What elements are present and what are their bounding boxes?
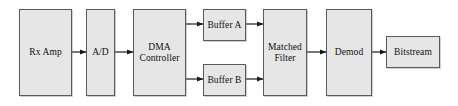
- node-label-ad: A/D: [90, 47, 111, 58]
- node-bitstream[interactable]: Bitstream: [386, 36, 440, 68]
- node-label-rx_amp: Rx Amp: [27, 47, 64, 58]
- block-diagram: Rx AmpA/DDMA ControllerBuffer ABuffer BM…: [0, 0, 458, 106]
- node-ad[interactable]: A/D: [86, 9, 115, 96]
- node-matched_filter[interactable]: Matched Filter: [263, 9, 307, 96]
- node-label-bitstream: Bitstream: [392, 47, 434, 58]
- node-buffer_a[interactable]: Buffer A: [203, 9, 246, 41]
- node-label-buffer_a: Buffer A: [205, 20, 243, 31]
- node-label-demod: Demod: [333, 47, 365, 58]
- node-label-matched_filter: Matched Filter: [266, 42, 304, 64]
- node-dma[interactable]: DMA Controller: [133, 9, 186, 96]
- node-rx_amp[interactable]: Rx Amp: [19, 9, 72, 96]
- node-demod[interactable]: Demod: [326, 9, 372, 96]
- node-label-dma: DMA Controller: [137, 42, 181, 64]
- node-label-buffer_b: Buffer B: [205, 75, 243, 86]
- node-buffer_b[interactable]: Buffer B: [203, 64, 246, 96]
